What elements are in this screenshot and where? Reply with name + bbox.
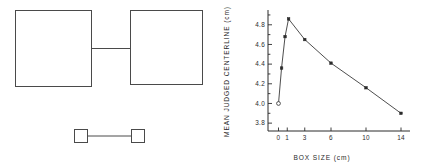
y-tick-label: 4.2 [255,80,265,87]
data-point-marker [365,86,368,89]
data-point-marker [400,112,403,115]
data-point-marker [284,35,287,38]
small-box-right [132,130,145,143]
small-box-left [75,130,88,143]
y-tick-label: 4.8 [255,21,265,28]
x-axis-tick-labels: 01361014 [277,134,405,141]
results-chart-svg: 3.84.04.24.44.64.8 01361014 BOX SIZE (cm… [215,0,430,166]
x-tick-label: 0 [277,134,281,141]
large-box-left [16,11,92,87]
stimulus-diagram-svg [0,0,215,166]
x-tick-label: 1 [285,134,289,141]
x-axis-title: BOX SIZE (cm) [293,154,350,162]
data-point-marker [280,67,283,70]
y-axis-title: MEAN JUDGED CENTERLINE (cm) [223,6,231,137]
data-point-marker-open [277,102,281,106]
x-tick-label: 3 [303,134,307,141]
y-axis-tick-labels: 3.84.04.24.44.64.8 [255,21,265,126]
data-series-line [279,19,402,113]
y-tick-label: 4.4 [255,60,265,67]
y-tick-label: 4.0 [255,100,265,107]
large-boxes-pair [16,11,203,87]
figure-root: 3.84.04.24.44.64.8 01361014 BOX SIZE (cm… [0,0,430,166]
results-chart-panel: 3.84.04.24.44.64.8 01361014 BOX SIZE (cm… [215,0,430,166]
small-boxes-pair [75,130,145,143]
data-point-marker [330,62,333,65]
data-point-marker [303,38,306,41]
chart-axes [268,10,410,131]
stimulus-diagram-panel [0,0,215,166]
y-tick-label: 3.8 [255,119,265,126]
large-box-right [131,11,203,85]
y-axis-ticks [268,15,272,123]
x-tick-label: 14 [397,134,405,141]
x-axis-ticks [279,128,402,132]
series-polyline [279,19,402,113]
y-tick-label: 4.6 [255,41,265,48]
x-tick-label: 6 [329,134,333,141]
x-tick-label: 10 [362,134,370,141]
data-point-marker [287,18,290,21]
